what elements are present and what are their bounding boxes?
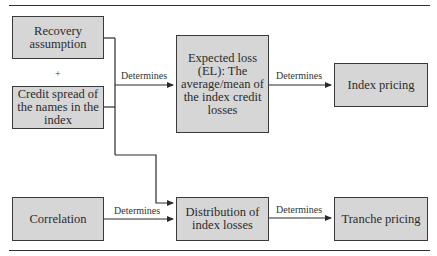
recovery-assumption-node: Recovery assumption (12, 16, 104, 59)
credit-spread-node: Credit spread of the names in the index (12, 86, 104, 129)
edge-label-el-to-index: Determines (276, 70, 322, 81)
distribution-label: Distribution of index losses (183, 206, 263, 232)
index-pricing-label: Index pricing (348, 79, 415, 92)
expected-loss-label: Expected loss (EL): The average/mean of … (178, 52, 268, 117)
edge-label-inputs-to-el: Determines (121, 70, 167, 81)
credit-spread-label: Credit spread of the names in the index (17, 88, 99, 127)
correlation-node: Correlation (12, 197, 104, 241)
distribution-node: Distribution of index losses (176, 197, 269, 241)
edge-label-distribution-to-tranche: Determines (276, 204, 322, 215)
index-pricing-node: Index pricing (334, 63, 428, 107)
tranche-pricing-label: Tranche pricing (341, 213, 420, 226)
recovery-assumption-label: Recovery assumption (23, 25, 93, 51)
edge-label-correlation-to-distribution: Determines (114, 205, 160, 216)
tranche-pricing-node: Tranche pricing (334, 197, 428, 241)
expected-loss-node: Expected loss (EL): The average/mean of … (176, 35, 269, 133)
plus-sign: + (55, 68, 61, 79)
correlation-label: Correlation (30, 213, 87, 226)
